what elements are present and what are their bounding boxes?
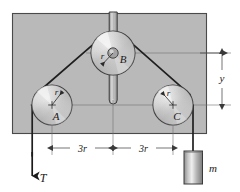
dimension-height-y-label: y bbox=[219, 72, 225, 84]
figure-canvas: r A r B bbox=[0, 0, 240, 192]
pulley-system-figure: r A r B bbox=[0, 0, 240, 192]
dimension-span-left-label: 3r bbox=[77, 143, 87, 154]
hanging-mass-label: m bbox=[209, 162, 217, 174]
pulley-b-label: B bbox=[120, 53, 127, 65]
pulley-a-radius-label: r bbox=[55, 87, 59, 97]
tension-force: T bbox=[32, 152, 47, 185]
pulley-b: r B bbox=[91, 31, 135, 75]
pulley-c-label: C bbox=[173, 110, 181, 122]
pulley-b-radius-label: r bbox=[101, 51, 105, 61]
hanging-mass: m bbox=[184, 151, 217, 184]
pulley-c-radius-label: r bbox=[167, 88, 171, 98]
pulley-a-label: A bbox=[52, 110, 60, 122]
dimension-span-right-label: 3r bbox=[138, 143, 148, 154]
dimension-span-left: 3r bbox=[53, 143, 112, 154]
pulley-c: r C bbox=[153, 85, 193, 125]
pulley-a: r A bbox=[32, 85, 72, 125]
tension-force-label: T bbox=[40, 171, 48, 185]
dimension-span-right: 3r bbox=[114, 143, 172, 154]
